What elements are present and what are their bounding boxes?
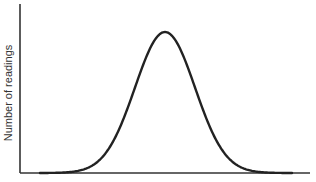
bell-curve-chart [0, 0, 316, 182]
y-axis-label: Number of readings [1, 18, 15, 168]
y-axis-label-text: Number of readings [2, 45, 14, 142]
distribution-curve [40, 32, 292, 173]
